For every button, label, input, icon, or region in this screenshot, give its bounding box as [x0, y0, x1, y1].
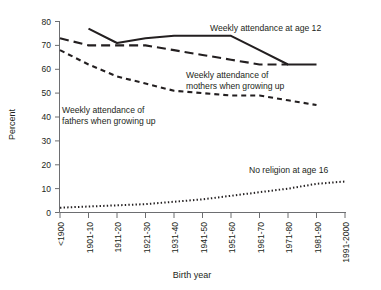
x-tick-marks [60, 213, 345, 219]
y-tick-label: 30 [42, 136, 52, 146]
x-tick-label: 1981-90 [313, 222, 323, 253]
x-tick-label: 1931-40 [170, 222, 180, 253]
y-tick-label: 70 [42, 40, 52, 50]
y-tick-label: 20 [42, 160, 52, 170]
x-tick-label: 1921-30 [142, 222, 152, 253]
annotation-fathers-line1: Weekly attendance of [62, 105, 145, 115]
x-tick-label: 1911-20 [113, 222, 123, 253]
x-axis-title: Birth year [173, 270, 212, 280]
y-tick-labels: 80 70 60 50 40 30 20 10 0 [42, 17, 52, 218]
series-line-mothers-attendance [60, 38, 288, 64]
x-tick-label: 1971-80 [284, 222, 294, 253]
annotation-weekly-attendance-age-12: Weekly attendance at age 12 [210, 23, 321, 33]
x-tick-label: 1941-50 [199, 222, 209, 253]
x-tick-label: 1901-10 [85, 222, 95, 253]
series-line-no-religion-age-16 [60, 181, 345, 207]
y-tick-label: 10 [42, 184, 52, 194]
x-tick-label: 1951-60 [227, 222, 237, 253]
line-chart: 80 70 60 50 40 30 20 10 0 Percent [0, 0, 381, 290]
y-tick-label: 50 [42, 88, 52, 98]
y-tick-label: 0 [46, 208, 51, 218]
annotation-mothers-line1: Weekly attendance of [186, 70, 269, 80]
x-tick-labels: <1900 1901-10 1911-20 1921-30 1931-40 19… [56, 222, 351, 263]
y-tick-label: 60 [42, 64, 52, 74]
x-tick-label: 1991-2000 [341, 222, 351, 263]
y-tick-marks [55, 22, 60, 213]
y-axis-title: Percent [7, 108, 17, 140]
chart-container: 80 70 60 50 40 30 20 10 0 Percent [0, 0, 381, 290]
y-tick-label: 80 [42, 17, 52, 27]
y-tick-label: 40 [42, 112, 52, 122]
x-tick-label: <1900 [56, 222, 66, 246]
series-line-weekly-attendance-age-12 [89, 29, 317, 65]
x-tick-label: 1961-70 [256, 222, 266, 253]
annotation-mothers-line2: mothers when growing up [186, 81, 285, 91]
annotation-fathers-line2: fathers when growing up [62, 116, 156, 126]
annotation-no-religion-age-16: No religion at age 16 [249, 165, 329, 175]
